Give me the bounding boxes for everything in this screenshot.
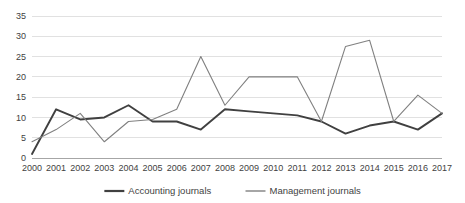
- x-tick-label: 2013: [336, 163, 356, 173]
- x-tick-label: 2000: [22, 163, 42, 173]
- legend-label-2: Management journals: [270, 185, 362, 196]
- x-tick-label: 2016: [408, 163, 428, 173]
- x-tick-label: 2004: [118, 163, 138, 173]
- x-tick-label: 2002: [70, 163, 90, 173]
- x-tick-label: 2014: [360, 163, 380, 173]
- x-tick-label: 2012: [311, 163, 331, 173]
- x-tick-label: 2006: [167, 163, 187, 173]
- x-tick-label: 2001: [46, 163, 66, 173]
- y-tick-label: 0: [21, 153, 26, 163]
- x-tick-label: 2007: [191, 163, 211, 173]
- y-tick-label: 10: [16, 113, 26, 123]
- x-tick-label: 2015: [384, 163, 404, 173]
- y-tick-label: 25: [16, 52, 26, 62]
- x-tick-label: 2011: [288, 163, 307, 173]
- x-tick-label: 2008: [215, 163, 235, 173]
- x-tick-label: 2010: [263, 163, 283, 173]
- chart-canvas: 05101520253035 2000200120022003200420052…: [0, 0, 465, 203]
- y-tick-label: 5: [21, 133, 26, 143]
- line-chart: 05101520253035 2000200120022003200420052…: [0, 0, 465, 203]
- y-tick-label: 15: [16, 92, 26, 102]
- y-tick-label: 30: [16, 31, 26, 41]
- y-tick-label: 20: [16, 72, 26, 82]
- legend-label-1: Accounting journals: [128, 185, 211, 196]
- y-tick-label: 35: [16, 11, 26, 21]
- x-tick-label: 2005: [143, 163, 163, 173]
- x-tick-label: 2009: [239, 163, 259, 173]
- x-tick-label: 2017: [432, 163, 452, 173]
- x-tick-label: 2003: [94, 163, 114, 173]
